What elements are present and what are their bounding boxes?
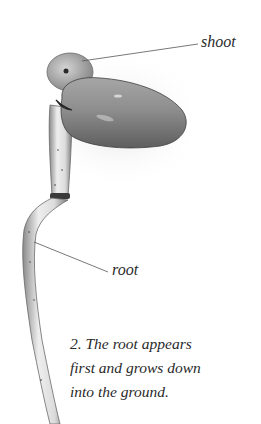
root-label: root [112,262,138,278]
caption-line: first and grows down [70,356,260,380]
root-leader-line [34,242,108,272]
shoot-label: shoot [201,34,236,50]
caption: 2. The root appears first and grows down… [70,332,260,404]
caption-line: 2. The root appears [70,332,260,356]
page: shoot root 2. The root appears first and… [0,0,261,424]
caption-line: into the ground. [70,380,260,404]
